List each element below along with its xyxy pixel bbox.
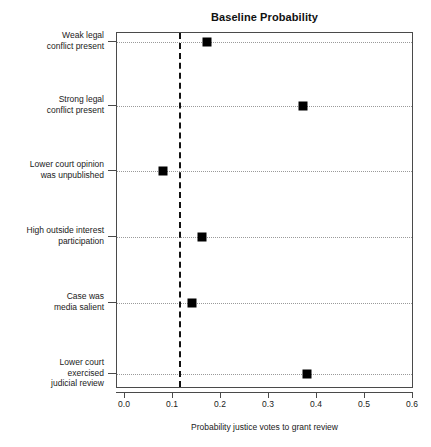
xtick-6 xyxy=(412,392,413,398)
xtick-label-5: 0.5 xyxy=(344,399,384,409)
ytick-label-media-salient: Case was media salient xyxy=(0,291,104,312)
gridline-row-4 xyxy=(117,237,412,238)
ytick-row-6 xyxy=(108,373,116,374)
ytick-row-4 xyxy=(108,236,116,237)
xtick-1 xyxy=(172,392,173,398)
ytick-row-1 xyxy=(108,41,116,42)
data-point-outside-interest[interactable] xyxy=(197,233,206,242)
gridline-row-1 xyxy=(117,42,412,43)
ytick-label-weak-legal-conflict: Weak legal conflict present xyxy=(0,30,104,51)
chart-figure: Baseline Probability Weak legal conflict… xyxy=(0,0,431,447)
ytick-row-2 xyxy=(108,105,116,106)
ytick-label-judicial-review: Lower court exercised judicial review xyxy=(0,357,104,389)
ytick-row-3 xyxy=(108,170,116,171)
plot-area xyxy=(116,32,413,388)
data-point-unpublished-opinion[interactable] xyxy=(159,167,168,176)
chart-title: Baseline Probability xyxy=(116,11,413,23)
data-point-judicial-review[interactable] xyxy=(303,370,312,379)
data-point-strong-legal-conflict[interactable] xyxy=(298,102,307,111)
xtick-3 xyxy=(268,392,269,398)
data-point-weak-legal-conflict[interactable] xyxy=(202,38,211,47)
xtick-label-4: 0.4 xyxy=(296,399,336,409)
xtick-2 xyxy=(220,392,221,398)
xtick-0 xyxy=(124,392,125,398)
xtick-label-1: 0.1 xyxy=(152,399,192,409)
xtick-label-6: 0.6 xyxy=(392,399,431,409)
data-point-media-salient[interactable] xyxy=(188,299,197,308)
ytick-label-outside-interest: High outside interest participation xyxy=(0,225,104,246)
xtick-label-3: 0.3 xyxy=(248,399,288,409)
xtick-5 xyxy=(364,392,365,398)
ytick-row-5 xyxy=(108,302,116,303)
x-axis-line xyxy=(116,392,413,393)
x-axis-title: Probability justice votes to grant revie… xyxy=(116,422,413,432)
gridline-row-5 xyxy=(117,303,412,304)
gridline-row-2 xyxy=(117,106,412,107)
baseline-probability-reference-line xyxy=(179,33,181,387)
xtick-label-0: 0.0 xyxy=(104,399,144,409)
xtick-4 xyxy=(316,392,317,398)
xtick-label-2: 0.2 xyxy=(200,399,240,409)
ytick-label-strong-legal-conflict: Strong legal conflict present xyxy=(0,94,104,115)
gridline-row-6 xyxy=(117,374,412,375)
ytick-label-unpublished-opinion: Lower court opinion was unpublished xyxy=(0,159,104,180)
